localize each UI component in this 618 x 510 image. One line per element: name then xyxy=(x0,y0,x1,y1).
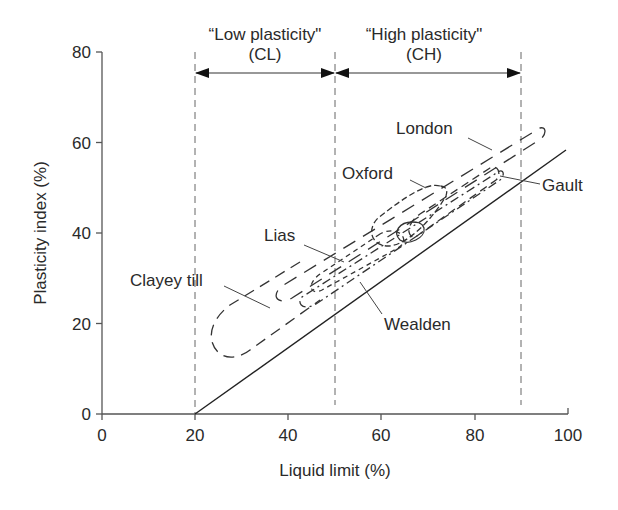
y-tick-60: 60 xyxy=(72,134,91,153)
region-labels: “Low plasticity" (CL) “High plasticity" … xyxy=(209,25,483,64)
x-tick-40: 40 xyxy=(279,426,298,445)
label-lias: Lias xyxy=(264,226,295,245)
a-line xyxy=(195,150,566,414)
high-plasticity-code: (CH) xyxy=(406,45,442,64)
plasticity-chart: 0 20 40 60 80 0 20 40 60 80 100 Liquid l… xyxy=(0,0,618,510)
series-labels: London Oxford Gault Lias Clayey till Wea… xyxy=(130,119,583,334)
y-tick-80: 80 xyxy=(72,43,91,62)
leader-wealden xyxy=(360,282,382,314)
leader-oxford xyxy=(410,180,426,188)
label-wealden: Wealden xyxy=(384,315,451,334)
y-tick-labels: 0 20 40 60 80 xyxy=(72,43,91,424)
y-axis-title: Plasticity index (%) xyxy=(31,161,50,305)
label-oxford: Oxford xyxy=(342,164,393,183)
label-clayey-till: Clayey till xyxy=(130,271,203,290)
x-tick-20: 20 xyxy=(186,426,205,445)
low-plasticity-code: (CL) xyxy=(248,45,281,64)
y-tick-20: 20 xyxy=(72,315,91,334)
soil-envelopes xyxy=(211,128,545,357)
x-tick-0: 0 xyxy=(97,426,106,445)
envelope-gault xyxy=(409,167,499,238)
envelope-clayey-till xyxy=(211,262,320,357)
label-london: London xyxy=(396,119,453,138)
envelope-oxford xyxy=(372,185,447,246)
boundary-lines xyxy=(195,52,521,414)
envelope-wealden xyxy=(300,171,503,307)
y-tick-0: 0 xyxy=(82,405,91,424)
x-tick-100: 100 xyxy=(554,426,582,445)
x-tick-60: 60 xyxy=(372,426,391,445)
high-plasticity-label: “High plasticity" xyxy=(366,25,483,44)
leader-lias xyxy=(304,245,344,262)
low-plasticity-label: “Low plasticity" xyxy=(209,25,322,44)
label-gault: Gault xyxy=(542,176,583,195)
x-tick-80: 80 xyxy=(466,426,485,445)
leader-london xyxy=(468,138,492,150)
x-tick-labels: 0 20 40 60 80 100 xyxy=(97,426,582,445)
y-tick-40: 40 xyxy=(72,224,91,243)
envelope-london xyxy=(276,128,545,301)
axes xyxy=(96,52,568,420)
x-axis-title: Liquid limit (%) xyxy=(279,461,390,480)
